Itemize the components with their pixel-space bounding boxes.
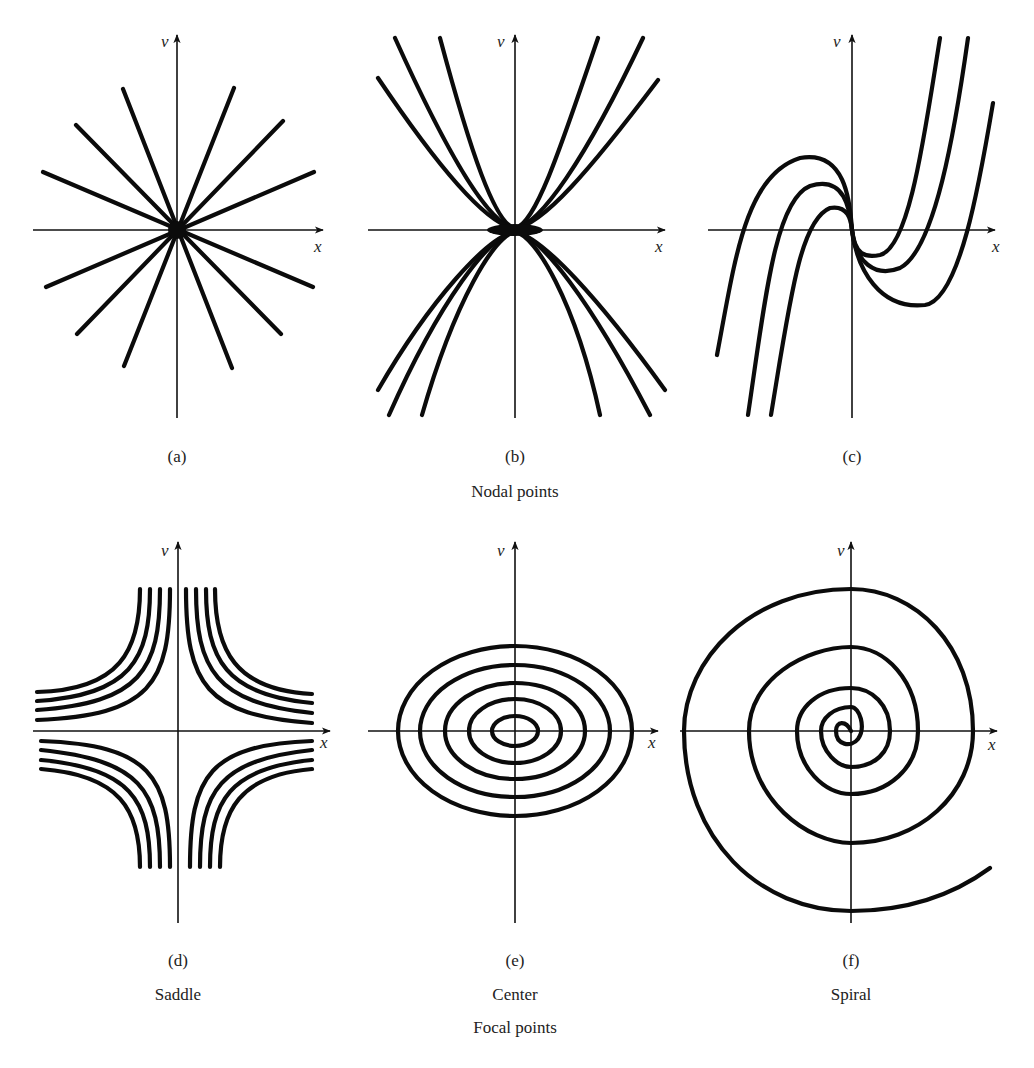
x-axis-label: x [654,237,663,256]
x-axis-label: x [313,237,322,256]
panel-label: (d) [168,951,188,970]
group-caption-focal-points: Focal points [473,1018,557,1037]
y-axis-label: v [833,32,841,51]
panel-a-star-node: x v (a) [33,32,323,466]
panel-label: (e) [506,951,525,970]
panel-label: (b) [505,447,525,466]
x-axis-label: x [987,735,996,754]
panel-label: (c) [843,447,862,466]
panel-f-spiral: x v (f) Spiral [680,541,997,1004]
y-axis-label: v [497,541,505,560]
trajectories [684,589,990,911]
panel-name: Center [492,985,538,1004]
y-axis-label: v [497,32,505,51]
panel-label: (f) [843,951,860,970]
panel-e-center: x v (e) Center [368,541,658,1004]
x-axis-label: x [319,733,328,752]
phase-portrait-figure: x v (a) x v (b) [0,0,1034,1068]
panel-c-cubic-node: x v (c) [708,32,1000,466]
panel-b-parabolic-node: x v (b) [368,32,665,466]
trajectories [378,38,665,415]
y-axis-label: v [161,541,169,560]
x-axis-label: x [647,733,656,752]
group-caption-nodal-points: Nodal points [471,482,558,501]
x-axis-label: x [991,237,1000,256]
trajectories [717,38,993,415]
panel-name: Spiral [831,985,872,1004]
panel-label: (a) [168,447,187,466]
panel-d-saddle: x v (d) Saddle [33,541,330,1004]
y-axis-label: v [837,541,845,560]
trajectories [37,589,312,867]
trajectories [43,88,314,368]
panel-name: Saddle [155,985,201,1004]
y-axis-label: v [161,32,169,51]
